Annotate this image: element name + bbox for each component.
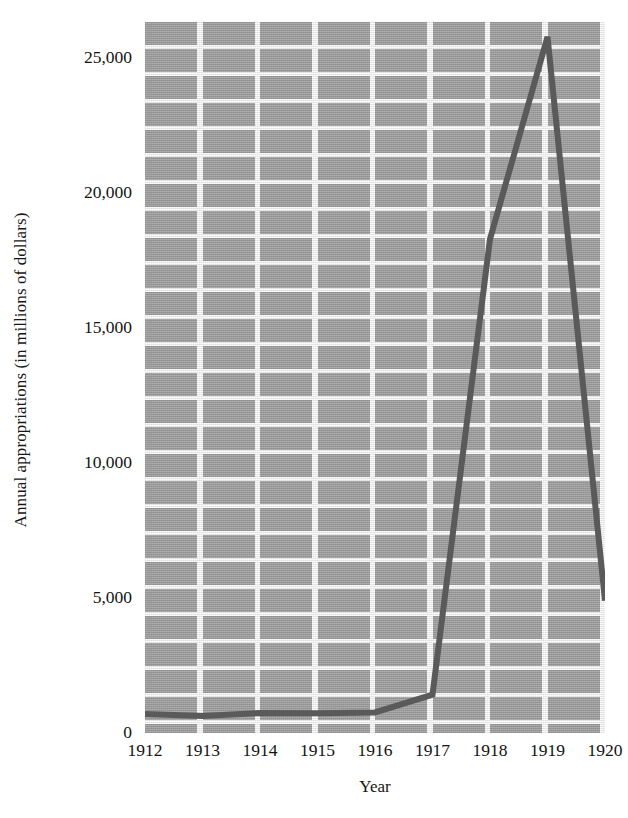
y-tick-label: 10,000 [84,454,132,472]
plot-area [145,22,605,733]
x-tick-label: 1915 [300,741,335,760]
y-tick-label: 15,000 [84,320,132,338]
y-axis-title: Annual appropriations (in millions of do… [0,0,42,740]
y-tick-label: 25,000 [84,50,132,68]
data-series-line [145,22,605,733]
y-tick-label: 20,000 [84,185,132,203]
x-tick-label: 1919 [530,741,565,760]
chart-figure: Annual appropriations (in millions of do… [0,0,628,818]
x-tick-label: 1920 [588,741,623,760]
x-tick-label: 1918 [473,741,508,760]
x-axis-tick-labels: 191219131914191519161917191819191920 [145,741,605,767]
x-tick-label: 1916 [358,741,393,760]
x-tick-label: 1914 [243,741,278,760]
y-axis-tick-labels: 05,00010,00015,00020,00025,000 [42,0,140,818]
x-tick-label: 1912 [128,741,163,760]
y-axis-title-text: Annual appropriations (in millions of do… [11,213,31,528]
x-tick-label: 1917 [415,741,450,760]
y-tick-label: 5,000 [93,589,132,607]
x-tick-label: 1913 [185,741,220,760]
x-axis-title: Year [145,777,605,797]
